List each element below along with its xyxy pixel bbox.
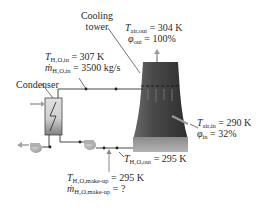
air-in-rh-value: = 32%	[210, 128, 236, 139]
air-out-temp-value: = 304 K	[150, 22, 183, 33]
air-out-rh-value: = 100%	[144, 33, 175, 44]
subscript: H₂O,in	[52, 67, 70, 74]
air-in-label: Tair,in = 290 K φin = 32%	[197, 117, 251, 139]
makeup-label: TH₂O,make-up = 295 K ṁH₂O,make-up = ?	[67, 172, 144, 194]
water-in-flow-value: = 3500 kg/s	[73, 62, 120, 73]
makeup-flow-value: = ?	[113, 183, 126, 194]
subscript: H₂O,make-up	[74, 188, 110, 195]
cooling-tower	[133, 49, 188, 152]
makeup-water-arrow	[107, 149, 112, 172]
subscript: in	[203, 133, 208, 140]
hot-water-pipe	[58, 89, 143, 98]
condenser-label: Condenser	[16, 79, 59, 90]
pump-icon	[30, 143, 42, 153]
water-out-temp-value: = 295 K	[154, 153, 187, 164]
air-out-label: Tair,out = 304 K φout = 100%	[125, 22, 182, 44]
cooling-label-line1: Cooling	[77, 10, 117, 21]
subscript: out	[134, 38, 142, 45]
condenser	[30, 98, 62, 135]
subscript: H₂O,out	[130, 158, 152, 165]
water-in-temp-value: = 307 K	[71, 51, 104, 62]
cooling-label-line2: tower	[77, 21, 117, 32]
cooling-tower-label: Cooling tower	[77, 10, 117, 32]
water-out-label: TH₂O,out = 295 K	[124, 153, 187, 164]
water-in-label: TH₂O,in = 307 K ṁH₂O,in = 3500 kg/s	[45, 51, 120, 73]
pump-icon	[84, 140, 96, 150]
makeup-temp-value: = 295 K	[111, 172, 144, 183]
air-in-temp-value: = 290 K	[218, 117, 251, 128]
